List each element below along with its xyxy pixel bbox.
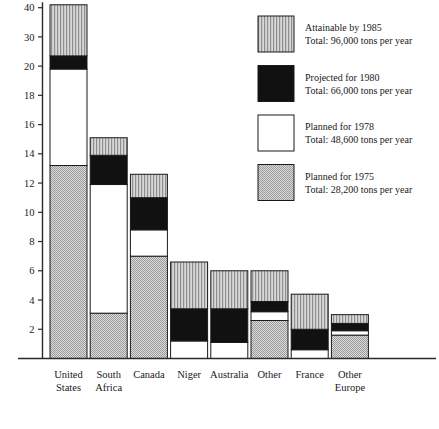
bar-column	[251, 271, 288, 359]
legend-item-title: Attainable by 1985	[305, 22, 382, 33]
legend-swatch	[258, 165, 294, 201]
legend-item-total: Total: 48,600 tons per year	[305, 134, 413, 145]
bar-segment	[130, 198, 167, 230]
bar-segment	[90, 155, 127, 184]
chart-legend: Attainable by 1985Total: 96,000 tons per…	[258, 16, 413, 201]
bar-segment	[130, 230, 167, 256]
bar-segment	[251, 301, 288, 311]
y-axis-tick-label: 20	[24, 61, 35, 72]
bar-segment	[171, 309, 208, 341]
bar-segment	[251, 312, 288, 321]
bar-segment	[90, 185, 127, 314]
y-axis-tick-label: 12	[24, 178, 35, 189]
y-axis-tick-label: 14	[24, 148, 35, 159]
x-axis-category-label: South	[96, 369, 121, 380]
x-axis-category-label: Other	[258, 369, 282, 380]
bar-segment	[211, 271, 248, 309]
bar-segment	[50, 166, 87, 359]
bar-segment	[331, 331, 368, 335]
bar-column	[211, 271, 248, 359]
chart-container: 24681012141618203040 UnitedStatesSouthAf…	[0, 0, 439, 429]
bar-segment	[331, 335, 368, 358]
bar-column	[291, 294, 328, 358]
y-axis-tick-label: 30	[24, 32, 35, 43]
bar-column	[331, 315, 368, 359]
y-axis-tick-label: 8	[29, 236, 34, 247]
x-axis-category-label: Africa	[95, 382, 122, 393]
bar-segment	[90, 138, 127, 156]
bar-segment	[291, 329, 328, 349]
bar-segment	[251, 271, 288, 302]
bar-segment	[331, 323, 368, 330]
legend-swatch	[258, 16, 294, 52]
bar-segment	[171, 262, 208, 309]
legend-swatch	[258, 115, 294, 151]
x-axis-category-label: United	[54, 369, 83, 380]
y-axis-tick-label: 10	[24, 207, 35, 218]
x-axis-category-label: Niger	[177, 369, 201, 380]
y-axis-tick-label: 4	[29, 295, 35, 306]
bar-column	[130, 174, 167, 358]
stacked-bar-chart: 24681012141618203040 UnitedStatesSouthAf…	[0, 0, 439, 429]
y-axis-tick-label: 16	[24, 119, 35, 130]
bar-column	[90, 138, 127, 359]
legend-item-total: Total: 28,200 tons per year	[305, 184, 413, 195]
legend-item-total: Total: 66,000 tons per year	[305, 85, 413, 96]
legend-item-total: Total: 96,000 tons per year	[305, 35, 413, 46]
bar-segment	[50, 5, 87, 56]
x-axis-category-label: Other	[338, 369, 362, 380]
y-axis: 24681012141618203040	[24, 2, 43, 358]
bar-segment	[291, 294, 328, 329]
bar-segment	[130, 256, 167, 358]
bar-segment	[291, 350, 328, 359]
y-axis-tick-label: 40	[24, 2, 35, 13]
x-axis-category-label: States	[56, 382, 81, 393]
bar-column	[50, 5, 87, 359]
x-axis-category-label: France	[295, 369, 324, 380]
x-axis-category-label: Canada	[133, 369, 165, 380]
x-axis-category-label: Australia	[210, 369, 249, 380]
y-axis-tick-label: 6	[29, 265, 34, 276]
bar-column	[171, 262, 208, 358]
bar-segment	[50, 69, 87, 165]
legend-item-title: Planned for 1978	[305, 121, 374, 132]
bar-segment	[331, 315, 368, 324]
legend-item-title: Projected for 1980	[305, 72, 379, 83]
bars-group	[50, 5, 368, 359]
bar-segment	[130, 174, 167, 197]
y-axis-tick-label: 18	[24, 90, 35, 101]
bar-segment	[251, 320, 288, 358]
bar-segment	[50, 56, 87, 69]
x-axis-category-label: Europe	[335, 382, 366, 393]
bar-segment	[171, 341, 208, 359]
bar-segment	[211, 342, 248, 358]
bar-segment	[211, 309, 248, 343]
category-labels: UnitedStatesSouthAfricaCanadaNigerAustra…	[54, 369, 365, 393]
bar-segment	[90, 313, 127, 358]
legend-item-title: Planned for 1975	[305, 171, 374, 182]
legend-swatch	[258, 66, 294, 102]
y-axis-tick-label: 2	[29, 324, 34, 335]
